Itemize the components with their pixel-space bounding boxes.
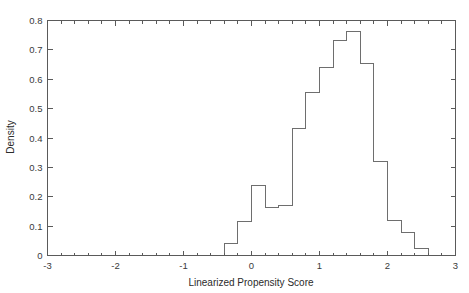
y-tick-label: 0.6 xyxy=(29,74,42,85)
x-tick-label: 3 xyxy=(453,260,458,271)
x-axis-title: Linearized Propensity Score xyxy=(188,277,314,288)
plot-background xyxy=(0,0,469,293)
y-tick-label: 0 xyxy=(37,250,42,261)
histogram-figure: -3-2-10123 00.10.20.30.40.50.60.70.8 Lin… xyxy=(0,0,469,293)
y-tick-label: 0.5 xyxy=(29,103,42,114)
y-tick-label: 0.7 xyxy=(29,44,42,55)
y-axis-title: Density xyxy=(5,120,16,153)
y-tick-label: 0.4 xyxy=(29,133,42,144)
y-tick-label: 0.1 xyxy=(29,221,42,232)
y-tick-label: 0.2 xyxy=(29,191,42,202)
histogram-plot: -3-2-10123 00.10.20.30.40.50.60.70.8 Lin… xyxy=(0,0,469,293)
x-tick-label: -2 xyxy=(111,260,119,271)
y-tick-label: 0.3 xyxy=(29,162,42,173)
x-tick-label: -3 xyxy=(43,260,51,271)
y-tick-label: 0.8 xyxy=(29,15,42,26)
x-tick-label: 1 xyxy=(317,260,322,271)
x-tick-label: 0 xyxy=(249,260,254,271)
x-tick-label: 2 xyxy=(385,260,390,271)
y-axis-tick-labels: 00.10.20.30.40.50.60.70.8 xyxy=(29,15,42,261)
x-tick-label: -1 xyxy=(179,260,187,271)
